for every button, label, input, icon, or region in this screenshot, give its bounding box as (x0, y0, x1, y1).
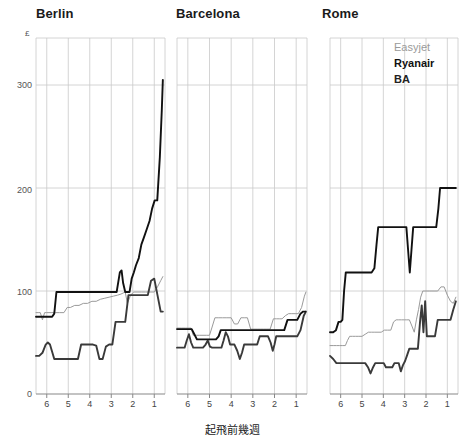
panel-berlin (36, 38, 165, 398)
x-tick-label-rome-6: 6 (331, 399, 351, 409)
x-tick-label-barcelona-1: 1 (286, 399, 306, 409)
panel-rome (330, 38, 458, 398)
x-tick-label-rome-4: 4 (373, 399, 393, 409)
y-tick-label-100: 100 (6, 287, 32, 297)
x-tick-label-berlin-1: 1 (144, 399, 164, 409)
x-tick-label-barcelona-2: 2 (265, 399, 285, 409)
x-tick-label-berlin-4: 4 (80, 399, 100, 409)
x-tick-label-berlin-2: 2 (123, 399, 143, 409)
legend-item-ryanair: Ryanair (394, 57, 434, 69)
x-tick-label-rome-1: 1 (437, 399, 457, 409)
x-tick-label-barcelona-4: 4 (221, 399, 241, 409)
panel-barcelona (177, 38, 307, 398)
y-tick-label-0: 0 (6, 389, 32, 399)
y-tick-label-200: 200 (6, 185, 32, 195)
x-axis-title: 起飛前幾週 (0, 421, 465, 437)
panel-title-berlin: Berlin (36, 6, 73, 21)
x-tick-label-berlin-5: 5 (58, 399, 78, 409)
y-axis-unit-symbol: £ (25, 29, 29, 38)
panel-title-barcelona: Barcelona (176, 6, 240, 21)
x-tick-label-berlin-6: 6 (37, 399, 57, 409)
x-tick-label-rome-3: 3 (395, 399, 415, 409)
x-tick-label-barcelona-3: 3 (243, 399, 263, 409)
x-tick-label-rome-2: 2 (416, 399, 436, 409)
x-tick-label-berlin-3: 3 (101, 399, 121, 409)
legend-item-easyjet: Easyjet (394, 41, 430, 53)
airfare-line-chart-figure: Berlin Barcelona Rome £ 300 200 100 0 Ea… (0, 0, 465, 445)
x-tick-label-rome-5: 5 (352, 399, 372, 409)
x-tick-label-barcelona-5: 5 (200, 399, 220, 409)
y-tick-label-300: 300 (6, 80, 32, 90)
x-tick-label-barcelona-6: 6 (178, 399, 198, 409)
legend-item-ba: BA (394, 73, 410, 85)
panel-title-rome: Rome (322, 6, 359, 21)
